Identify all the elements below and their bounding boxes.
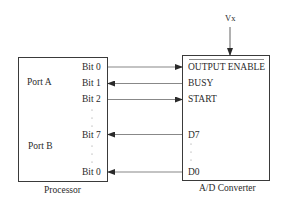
bit-b0-label: Bit 0	[82, 167, 101, 177]
port-a-label: Port A	[27, 77, 52, 87]
bit-a0-label: Bit 0	[82, 62, 101, 72]
vx-label: Vx	[225, 13, 235, 23]
pin-output-enable: OUTPUT ENABLE	[188, 62, 265, 72]
processor-label: Processor	[44, 185, 81, 195]
converter-box	[183, 56, 270, 181]
bit-b7-label: Bit 7	[82, 130, 101, 140]
pin-d0: D0	[188, 167, 200, 177]
port-b-label: Port B	[28, 141, 53, 151]
converter-ellipsis	[191, 144, 192, 161]
pin-d7: D7	[188, 130, 200, 140]
diagram-canvas	[0, 0, 286, 203]
pin-busy: BUSY	[188, 78, 213, 88]
bit-a2-label: Bit 2	[82, 94, 101, 104]
pin-start: START	[188, 94, 217, 104]
bit-a1-label: Bit 1	[82, 78, 101, 88]
converter-label: A/D Converter	[199, 183, 256, 193]
